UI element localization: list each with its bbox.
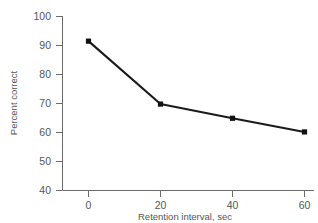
y-tick-label-40: 40 xyxy=(39,184,51,196)
y-tick-label-80: 80 xyxy=(39,68,51,80)
data-series-markers xyxy=(86,39,307,135)
y-tick-label-70: 70 xyxy=(39,97,51,109)
data-point xyxy=(86,39,91,44)
y-tick-label-90: 90 xyxy=(39,39,51,51)
y-axis-title: Percent correct xyxy=(8,70,19,135)
data-point xyxy=(230,116,235,121)
data-point xyxy=(158,101,163,106)
data-series-line xyxy=(89,41,305,132)
x-tick-label-0: 0 xyxy=(86,199,92,211)
x-tick-label-60: 60 xyxy=(299,199,311,211)
x-tick-label-20: 20 xyxy=(155,199,167,211)
y-tick-label-50: 50 xyxy=(39,155,51,167)
y-tick-label-60: 60 xyxy=(39,126,51,138)
line-chart: 100 90 80 70 60 50 40 0 20 40 60 Percent… xyxy=(0,0,318,223)
x-axis-title: Retention interval, sec xyxy=(138,211,232,222)
chart-figure: 100 90 80 70 60 50 40 0 20 40 60 Percent… xyxy=(0,0,318,223)
x-tick-label-40: 40 xyxy=(227,199,239,211)
y-tick-label-100: 100 xyxy=(33,10,51,22)
data-point xyxy=(302,129,307,134)
